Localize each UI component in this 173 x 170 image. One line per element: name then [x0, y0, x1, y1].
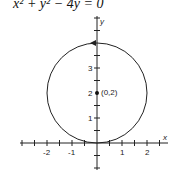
center-label: (0,2): [101, 88, 118, 97]
svg-text:2: 2: [145, 148, 150, 157]
svg-text:1: 1: [120, 148, 125, 157]
center-point: [95, 91, 99, 95]
svg-text:1: 1: [88, 114, 93, 123]
svg-text:2: 2: [88, 89, 93, 98]
svg-text:y: y: [99, 17, 105, 26]
svg-text:-1: -1: [68, 148, 76, 157]
svg-text:-2: -2: [43, 148, 51, 157]
svg-text:3: 3: [88, 64, 93, 73]
graph: (0,2) -2 -1 1 2 1 2 3 y x: [0, 0, 173, 170]
svg-text:x: x: [162, 133, 168, 142]
direction-arrow-icon: [90, 40, 96, 46]
